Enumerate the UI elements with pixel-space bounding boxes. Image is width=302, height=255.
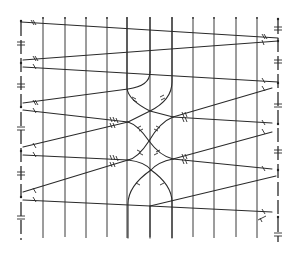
- tick-mark-icon: [262, 78, 265, 83]
- tick-mark-icon: [110, 117, 118, 123]
- strand-6: [23, 122, 128, 147]
- top-dot: [256, 17, 258, 19]
- tick-mark-icon: [258, 216, 266, 222]
- tick-mark-icon: [33, 108, 36, 113]
- right-border-dot: [277, 123, 279, 125]
- left-border-dot: [20, 150, 22, 152]
- strand-9: [23, 200, 272, 212]
- strand-5: [23, 110, 128, 122]
- top-dot: [192, 17, 194, 19]
- top-dot: [235, 17, 237, 19]
- tick-mark-icon: [33, 152, 36, 157]
- left-border-dot: [20, 106, 22, 108]
- left-border-dot: [20, 196, 22, 198]
- strand-7: [23, 155, 128, 160]
- left-border-dot: [20, 62, 22, 64]
- tick-mark-icon: [160, 183, 164, 185]
- tick-mark-icon: [160, 95, 165, 100]
- right-border-dot: [277, 18, 279, 20]
- tick-mark-icon: [182, 154, 187, 159]
- border-tick-icon: [17, 216, 25, 219]
- top-dot: [213, 17, 215, 19]
- top-dot: [85, 17, 87, 19]
- border-tick-icon: [17, 127, 25, 130]
- tick-mark-icon: [33, 197, 36, 202]
- top-dot: [42, 17, 44, 19]
- top-dot: [64, 17, 66, 19]
- border-tick-icon: [274, 233, 282, 236]
- tick-mark-icon: [110, 155, 118, 161]
- right-border-dot: [277, 216, 279, 218]
- right-border-dot: [277, 169, 279, 171]
- tick-mark-icon: [136, 183, 140, 185]
- top-dot: [106, 17, 108, 19]
- strand-diagram: [0, 0, 302, 255]
- tick-mark-icon: [33, 64, 36, 69]
- tick-mark-icon: [262, 129, 265, 134]
- strand-8: [23, 160, 128, 192]
